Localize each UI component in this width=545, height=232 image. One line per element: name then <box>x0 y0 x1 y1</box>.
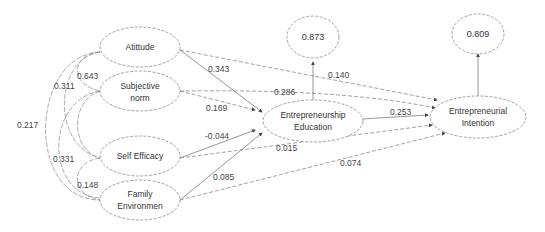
corr-subjective-selfefficacy <box>78 91 101 158</box>
coef-subjective-education: 0.169 <box>206 103 228 113</box>
node-r2-education: 0.873 <box>287 16 339 58</box>
node-attitude: Atittude <box>100 27 180 67</box>
node-intention-line1: Entrepreneurial <box>449 106 507 116</box>
r2-intention-value: 0.809 <box>467 29 490 39</box>
node-education-line1: Entrepreneurship <box>280 110 345 120</box>
corr-value-attitude-subjective: 0.643 <box>77 71 99 81</box>
node-subjective-norm-line1: Subjective <box>120 81 159 91</box>
corr-value-subjective-family: 0.331 <box>53 154 75 164</box>
coef-education-intention: 0.253 <box>390 107 412 117</box>
node-intention-line2: Intention <box>462 118 495 128</box>
sem-diagram: Atittude Subjective norm Self Efficacy F… <box>0 0 545 232</box>
corr-attitude-selfefficacy <box>64 52 100 158</box>
node-subjective-norm: Subjective norm <box>100 71 180 111</box>
coef-family-education: 0.085 <box>213 172 235 182</box>
node-subjective-norm-line2: norm <box>130 93 149 103</box>
node-family-line2: Environmen <box>117 201 163 211</box>
corr-value-attitude-selfefficacy: 0.311 <box>54 81 75 91</box>
node-entrepreneurial-intention: Entrepreneurial Intention <box>430 96 526 138</box>
corr-selfefficacy-family <box>78 158 101 200</box>
corr-value-attitude-family: 0.217 <box>17 120 39 130</box>
node-family-line1: Family <box>127 189 153 199</box>
node-family-environment: Family Environmen <box>100 180 180 220</box>
coef-selfefficacy-intention: 0.015 <box>276 143 298 153</box>
correlation-coefficients: 0.643 0.311 0.217 0.331 0.148 <box>17 71 99 190</box>
r2-education-value: 0.873 <box>302 32 325 42</box>
node-attitude-label: Atittude <box>126 42 155 52</box>
node-education-line2: Education <box>294 122 332 132</box>
coef-attitude-education: 0.343 <box>208 64 230 74</box>
coef-subjective-intention: 0.286 <box>274 87 296 97</box>
node-self-efficacy-label: Self Efficacy <box>117 151 164 161</box>
node-self-efficacy: Self Efficacy <box>100 136 180 176</box>
corr-value-selfefficacy-family: 0.148 <box>77 180 99 190</box>
coef-attitude-intention: 0.140 <box>328 70 350 80</box>
coef-family-intention: 0.074 <box>340 158 362 168</box>
node-r2-intention: 0.809 <box>452 14 504 54</box>
node-entrepreneurship-education: Entrepreneurship Education <box>263 100 363 142</box>
coef-selfefficacy-education: -0.044 <box>205 131 229 141</box>
